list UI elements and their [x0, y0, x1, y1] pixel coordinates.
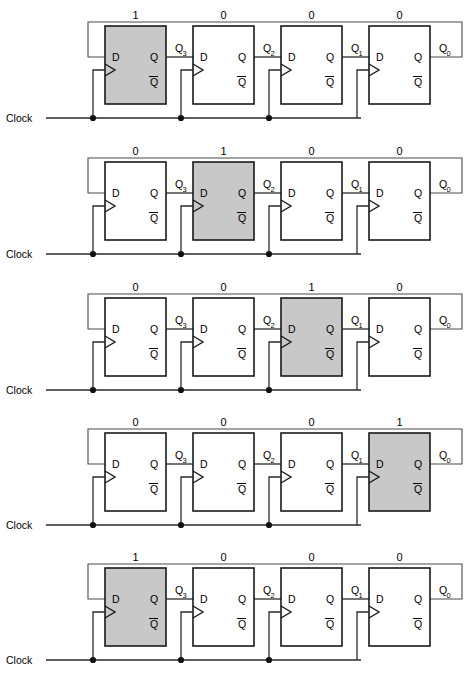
clock-stub	[357, 342, 369, 390]
d-flip-flop: 1DQQQ3	[90, 551, 187, 663]
d-flip-flop: 0DQQQ0	[342, 145, 451, 254]
clock-label: Clock	[6, 248, 33, 260]
clock-stub	[93, 206, 105, 254]
flip-flop-body-active	[105, 568, 166, 646]
pin-label-qbar: Q	[238, 618, 246, 630]
bit-value: 1	[308, 281, 314, 293]
pin-label-qbar: Q	[414, 618, 422, 630]
counter-stage: Clock1DQQQ30DQQQ20DQQQ10DQQQ0	[0, 542, 471, 679]
pin-label-q: Q	[238, 323, 246, 335]
pin-label-d: D	[200, 458, 208, 470]
output-label-subscript: 3	[183, 185, 187, 194]
pin-label-d: D	[112, 51, 120, 63]
pin-label-d: D	[112, 458, 120, 470]
flip-flop-body	[281, 26, 342, 104]
output-label-subscript: 1	[359, 49, 363, 58]
pin-label-qbar: Q	[238, 212, 246, 224]
clock-stub	[181, 206, 193, 254]
pin-label-d: D	[200, 51, 208, 63]
pin-label-qbar: Q	[414, 348, 422, 360]
output-label-subscript: 3	[183, 49, 187, 58]
pin-label-d: D	[288, 51, 296, 63]
pin-label-q: Q	[238, 593, 246, 605]
output-label-subscript: 0	[447, 321, 451, 330]
clock-stub	[181, 342, 193, 390]
clock-stub	[357, 206, 369, 254]
flip-flop-body	[193, 26, 254, 104]
clock-stub	[181, 477, 193, 525]
flip-flop-body	[369, 298, 430, 376]
clock-stub	[269, 206, 281, 254]
pin-label-d: D	[288, 593, 296, 605]
bit-value: 0	[220, 416, 226, 428]
output-label-subscript: 1	[359, 591, 363, 600]
d-flip-flop: 0DQQQ1	[254, 416, 363, 528]
flip-flop-body	[369, 26, 430, 104]
pin-label-q: Q	[414, 323, 422, 335]
pin-label-d: D	[376, 593, 384, 605]
d-flip-flop: 0DQQQ0	[342, 9, 451, 118]
bit-value: 0	[132, 145, 138, 157]
clock-stub	[93, 70, 105, 118]
pin-label-q: Q	[414, 458, 422, 470]
bit-value: 0	[308, 551, 314, 563]
bit-value: 0	[308, 9, 314, 21]
pin-label-q: Q	[414, 593, 422, 605]
clock-stub	[269, 342, 281, 390]
pin-label-qbar: Q	[326, 483, 334, 495]
pin-label-d: D	[376, 458, 384, 470]
output-label-subscript: 0	[447, 591, 451, 600]
d-flip-flop: 0DQQQ2	[166, 281, 275, 393]
bit-value: 0	[396, 9, 402, 21]
pin-label-q: Q	[414, 51, 422, 63]
bit-value: 1	[396, 416, 402, 428]
bit-value: 1	[220, 145, 226, 157]
flip-flop-body-active	[193, 162, 254, 240]
pin-label-q: Q	[150, 323, 158, 335]
flip-flop-body-active	[281, 298, 342, 376]
clock-stub	[269, 612, 281, 660]
d-flip-flop: 1DQQQ2	[166, 145, 275, 257]
pin-label-qbar: Q	[150, 483, 158, 495]
bit-value: 0	[132, 416, 138, 428]
flip-flop-body	[105, 162, 166, 240]
pin-label-q: Q	[238, 51, 246, 63]
pin-label-q: Q	[150, 51, 158, 63]
clock-label: Clock	[6, 384, 33, 396]
bit-value: 0	[132, 281, 138, 293]
pin-label-q: Q	[238, 187, 246, 199]
clock-label: Clock	[6, 654, 33, 666]
clock-stub	[181, 70, 193, 118]
pin-label-qbar: Q	[326, 76, 334, 88]
pin-label-d: D	[288, 187, 296, 199]
clock-stub	[93, 342, 105, 390]
d-flip-flop: 0DQQQ3	[90, 281, 187, 393]
d-flip-flop: 0DQQQ1	[254, 551, 363, 663]
flip-flop-body	[105, 298, 166, 376]
output-label-subscript: 3	[183, 321, 187, 330]
pin-label-q: Q	[326, 323, 334, 335]
d-flip-flop: 0DQQQ0	[342, 281, 451, 390]
pin-label-q: Q	[150, 593, 158, 605]
pin-label-d: D	[200, 593, 208, 605]
bit-value: 1	[132, 551, 138, 563]
output-label-subscript: 2	[271, 49, 275, 58]
clock-stub	[357, 477, 369, 525]
pin-label-qbar: Q	[414, 76, 422, 88]
pin-label-qbar: Q	[326, 348, 334, 360]
d-flip-flop: 0DQQQ1	[254, 9, 363, 121]
pin-label-q: Q	[326, 187, 334, 199]
pin-label-q: Q	[414, 187, 422, 199]
pin-label-d: D	[200, 323, 208, 335]
d-flip-flop: 0DQQQ2	[166, 9, 275, 121]
pin-label-q: Q	[326, 51, 334, 63]
pin-label-d: D	[112, 323, 120, 335]
d-flip-flop: 1DQQQ1	[254, 281, 363, 393]
pin-label-d: D	[112, 187, 120, 199]
flip-flop-body	[193, 433, 254, 511]
clock-junction-dot	[178, 115, 184, 121]
pin-label-qbar: Q	[414, 483, 422, 495]
clock-stub	[93, 477, 105, 525]
flip-flop-body	[369, 162, 430, 240]
clock-stub	[93, 612, 105, 660]
